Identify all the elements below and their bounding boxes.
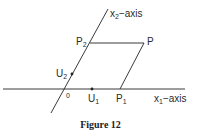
figure-caption: Figure 12 — [0, 119, 201, 130]
point-p2-label: P2 — [76, 37, 87, 48]
origin-label: 0 — [66, 92, 70, 99]
point-u1-label: U1 — [88, 94, 99, 105]
point-p-label: P — [147, 37, 154, 47]
point-u2-label: U2 — [56, 69, 67, 80]
oblique-axes-figure: x2−axis x1−axis P P2 U2 0 U1 P1 Figure 1… — [0, 0, 201, 140]
p1-to-p-line — [120, 43, 144, 89]
x1-axis-label: x1−axis — [154, 94, 187, 105]
u2-point — [71, 73, 74, 76]
x2-axis-label: x2−axis — [110, 9, 143, 20]
x2-axis-line — [51, 9, 108, 113]
point-p1-label: P1 — [116, 94, 127, 105]
u1-point — [91, 88, 94, 91]
